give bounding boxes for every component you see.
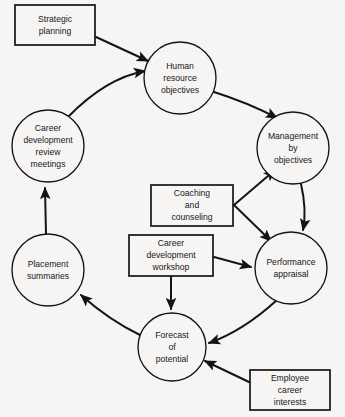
node-employee-career-interests[interactable]: Employee career interests [250, 370, 330, 410]
node-forecast-of-potential[interactable]: Forecast of potential [138, 313, 206, 381]
node-label-coaching-line-1: and [185, 200, 200, 210]
edge-career-development-workshop-to-performance-appraisal [214, 257, 251, 267]
node-layer: Strategic planning Human resource object… [12, 5, 330, 410]
node-label-performance-appraisal-line-1: appraisal [274, 269, 309, 279]
node-label-cdrm-line-2: review [36, 147, 62, 157]
node-label-human-resource-objectives-line-1: resource [163, 73, 197, 83]
diagram-canvas: Strategic planning Human resource object… [0, 0, 345, 417]
node-label-cdw-line-1: development [146, 250, 196, 260]
node-label-coaching-line-2: counseling [171, 212, 212, 222]
edge-management-by-objectives-to-performance-appraisal [301, 184, 305, 230]
node-management-by-objectives[interactable]: Management by objectives [257, 112, 329, 184]
node-career-development-review-meetings[interactable]: Career development review meetings [12, 110, 84, 182]
node-coaching-and-counseling[interactable]: Coaching and counseling [151, 185, 233, 226]
node-label-cdrm-line-0: Career [35, 123, 61, 133]
node-label-cdrm-line-1: development [23, 135, 73, 145]
edge-career-development-review-meetings-to-human-resource-objectives [68, 71, 145, 117]
node-performance-appraisal[interactable]: Performance appraisal [255, 232, 327, 304]
node-label-forecast-line-2: potential [156, 354, 189, 364]
node-label-management-by-objectives-line-1: by [288, 143, 298, 153]
career-development-cycle-diagram: Strategic planning Human resource object… [0, 0, 345, 417]
node-label-cdrm-line-3: meetings [31, 159, 66, 169]
node-label-management-by-objectives-line-2: objectives [274, 155, 312, 165]
node-label-human-resource-objectives-line-0: Human [166, 61, 194, 71]
edge-strategic-planning-to-human-resource-objectives [96, 37, 148, 61]
node-label-employee-line-2: interests [274, 397, 306, 407]
node-placement-summaries[interactable]: Placement summaries [12, 234, 84, 306]
node-human-resource-objectives[interactable]: Human resource objectives [144, 42, 216, 114]
node-label-performance-appraisal-line-0: Performance [266, 257, 315, 267]
edge-performance-appraisal-to-forecast-of-potential [209, 300, 277, 343]
node-strategic-planning[interactable]: Strategic planning [15, 5, 95, 45]
node-label-placement-summaries-line-0: Placement [28, 259, 69, 269]
node-label-management-by-objectives-line-0: Management [268, 131, 319, 141]
edge-forecast-of-potential-to-placement-summaries [81, 295, 140, 335]
node-career-development-workshop[interactable]: Career development workshop [129, 235, 213, 276]
node-label-cdw-line-2: workshop [152, 262, 190, 272]
node-label-strategic-planning-line-1: planning [39, 26, 72, 36]
edge-employee-career-interests-to-forecast-of-potential [205, 361, 249, 382]
node-label-forecast-line-1: of [168, 342, 176, 352]
node-label-human-resource-objectives-line-2: objectives [161, 85, 199, 95]
node-label-coaching-line-0: Coaching [174, 188, 211, 198]
node-label-employee-line-0: Employee [271, 373, 309, 383]
edge-placement-summaries-to-career-development-review-meetings [45, 188, 46, 234]
edge-coaching-and-counseling-to-performance-appraisal [234, 205, 271, 241]
node-label-forecast-line-0: Forecast [155, 330, 189, 340]
node-label-cdw-line-0: Career [158, 238, 184, 248]
node-label-employee-line-1: career [278, 385, 302, 395]
edge-human-resource-objectives-to-management-by-objectives [211, 91, 277, 118]
node-label-placement-summaries-line-1: summaries [27, 271, 69, 281]
node-label-strategic-planning-line-0: Strategic [38, 14, 73, 24]
